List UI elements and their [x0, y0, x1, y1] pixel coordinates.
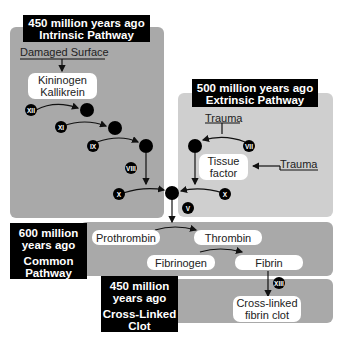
thrombin-box: Thrombin [194, 230, 262, 245]
factor-xi-badge: XI [55, 121, 67, 133]
extrinsic-title: Extrinsic Pathway [192, 94, 318, 106]
factor-ix-badge: IX [87, 140, 99, 152]
factor-vii-badge: VII [243, 140, 255, 152]
clot-text-1: Cross-linked [236, 297, 297, 309]
factor-xa-dot [165, 186, 179, 200]
factor-viii-badge: VIII [125, 162, 137, 174]
damaged-surface-text: Damaged Surface [20, 46, 109, 58]
intrinsic-age: 450 million years ago [23, 17, 150, 29]
common-title-1: Common [10, 255, 87, 267]
extrinsic-age: 500 million years ago [192, 82, 318, 94]
crosslinked-label: 450 million years ago Cross-Linked Clot [101, 276, 178, 332]
prothrombin-box: Prothrombin [92, 230, 160, 245]
clot-text-2: fibrin clot [245, 309, 289, 321]
kininogen-text: Kininogen [38, 74, 87, 86]
tissue-factor-box: Tissue factor [199, 154, 248, 180]
factor-xia-dot [108, 121, 122, 135]
factor-x-intrinsic-badge: X [113, 188, 125, 200]
common-title-2: Pathway [10, 267, 87, 279]
common-label: 600 million years ago Common Pathway [10, 223, 87, 279]
factor-xiia-dot [80, 103, 94, 117]
intrinsic-label: 450 million years ago Intrinsic Pathway [23, 15, 150, 42]
fibrin-box: Fibrin [235, 255, 303, 270]
trauma-top-text: Trauma [205, 112, 243, 124]
common-age-2: years ago [10, 239, 87, 251]
kininogen-kallikrein-box: Kininogen Kallikrein [28, 73, 97, 99]
crosslinked-age-2: years ago [101, 292, 178, 304]
crosslinked-title-1: Cross-Linked [101, 308, 178, 320]
factor-viia-dot [188, 139, 202, 153]
factor-xii-badge: XII [25, 104, 37, 116]
fibrinogen-box: Fibrinogen [147, 255, 215, 270]
intrinsic-title: Intrinsic Pathway [23, 29, 150, 41]
tissue-text: Tissue [208, 155, 240, 167]
crosslinked-clot-box: Cross-linked fibrin clot [233, 296, 301, 322]
trauma-side-text: Trauma [280, 158, 318, 170]
factor-v-badge: V [182, 202, 194, 214]
factor-x-extrinsic-badge: X [219, 188, 231, 200]
crosslinked-age-1: 450 million [101, 280, 178, 292]
extrinsic-label: 500 million years ago Extrinsic Pathway [192, 79, 318, 107]
factor-text: factor [210, 167, 238, 179]
kallikrein-text: Kallikrein [40, 86, 85, 98]
crosslinked-title-2: Clot [101, 320, 178, 332]
common-age-1: 600 million [10, 227, 87, 239]
factor-xiii-badge: XIII [273, 277, 285, 289]
factor-ixa-dot [139, 139, 153, 153]
